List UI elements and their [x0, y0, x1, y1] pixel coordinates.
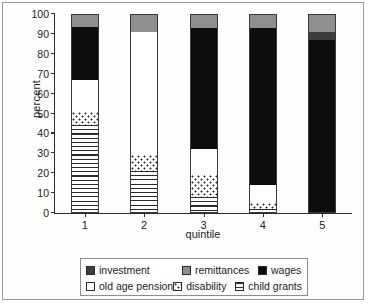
- investment-swatch-icon: [86, 266, 95, 275]
- x-axis-tick-mark: [204, 213, 205, 217]
- x-axis-label: quintile: [54, 228, 352, 240]
- legend-item-old-age-pension[interactable]: old age pension: [86, 281, 173, 292]
- y-axis-tick-label: 60: [15, 89, 55, 99]
- bar-segment-old-age-pension[interactable]: [71, 80, 99, 112]
- y-axis-tick-label: 40: [15, 128, 55, 138]
- bar-segment-disability[interactable]: [130, 155, 158, 171]
- chart-figure: percent 0102030405060708090100 12345 qui…: [0, 0, 368, 304]
- y-axis-tick-label: 90: [15, 29, 55, 39]
- x-axis-tick-mark: [263, 213, 264, 217]
- bar-segment-remittances[interactable]: [130, 14, 158, 32]
- bar-segment-old-age-pension[interactable]: [130, 32, 158, 155]
- x-axis-tick-mark: [85, 213, 86, 217]
- y-axis-tick-label: 80: [15, 49, 55, 59]
- y-axis-tick-label: 20: [15, 168, 55, 178]
- x-axis-tick-mark: [322, 213, 323, 217]
- legend-row-bottom: old age pension disability child grants: [86, 278, 302, 294]
- bar-segment-remittances[interactable]: [249, 14, 277, 28]
- stacked-bar[interactable]: [130, 14, 158, 213]
- legend-row-top: investment remittances wages: [86, 262, 302, 278]
- legend-label: old age pension: [99, 281, 173, 292]
- stacked-bar[interactable]: [308, 14, 336, 213]
- bar-segment-disability[interactable]: [249, 203, 277, 209]
- legend-label: investment: [99, 265, 150, 276]
- stacked-bar[interactable]: [190, 14, 218, 213]
- legend-label: wages: [271, 265, 301, 276]
- legend-item-wages[interactable]: wages: [258, 265, 301, 276]
- bar-segment-remittances[interactable]: [308, 14, 336, 32]
- bar-segment-disability[interactable]: [190, 175, 218, 197]
- bar-segment-wages[interactable]: [190, 28, 218, 149]
- y-axis-tick-label: 0: [15, 208, 55, 218]
- legend: investment remittances wages old age pen…: [80, 258, 308, 296]
- bar-segment-investment[interactable]: [308, 32, 336, 40]
- bar-segment-child-grants[interactable]: [130, 171, 158, 213]
- x-axis-tick-mark: [144, 213, 145, 217]
- bar-segment-remittances[interactable]: [71, 14, 99, 27]
- y-axis-tick-label: 50: [15, 109, 55, 119]
- axes: 0102030405060708090100 12345: [54, 14, 352, 214]
- bar-segment-wages[interactable]: [249, 28, 277, 185]
- bar-segment-wages[interactable]: [308, 40, 336, 213]
- legend-label: disability: [186, 281, 226, 292]
- y-axis-tick-label: 30: [15, 148, 55, 158]
- y-axis-tick-label: 10: [15, 188, 55, 198]
- bar-segment-child-grants[interactable]: [190, 197, 218, 213]
- bar-segment-child-grants[interactable]: [71, 125, 99, 213]
- legend-item-disability[interactable]: disability: [173, 281, 235, 292]
- wages-swatch-icon: [258, 266, 267, 275]
- y-axis-tick-label: 70: [15, 69, 55, 79]
- legend-item-investment[interactable]: investment: [86, 265, 182, 276]
- bar-segment-old-age-pension[interactable]: [190, 149, 218, 175]
- stacked-bar[interactable]: [71, 14, 99, 213]
- remittances-swatch-icon: [182, 266, 191, 275]
- bar-segment-old-age-pension[interactable]: [249, 185, 277, 203]
- child-grants-swatch-icon: [235, 282, 244, 291]
- y-axis-tick-label: 100: [15, 9, 55, 19]
- legend-label: child grants: [248, 281, 302, 292]
- old-age-pension-swatch-icon: [86, 282, 95, 291]
- bar-segment-remittances[interactable]: [190, 14, 218, 28]
- bar-segment-disability[interactable]: [71, 112, 99, 126]
- legend-item-child-grants[interactable]: child grants: [235, 281, 302, 292]
- legend-item-remittances[interactable]: remittances: [182, 265, 258, 276]
- stacked-bar[interactable]: [249, 14, 277, 213]
- disability-swatch-icon: [173, 282, 182, 291]
- plot-area: percent 0102030405060708090100 12345 qui…: [8, 6, 360, 234]
- legend-label: remittances: [195, 265, 249, 276]
- bar-segment-wages[interactable]: [71, 27, 99, 80]
